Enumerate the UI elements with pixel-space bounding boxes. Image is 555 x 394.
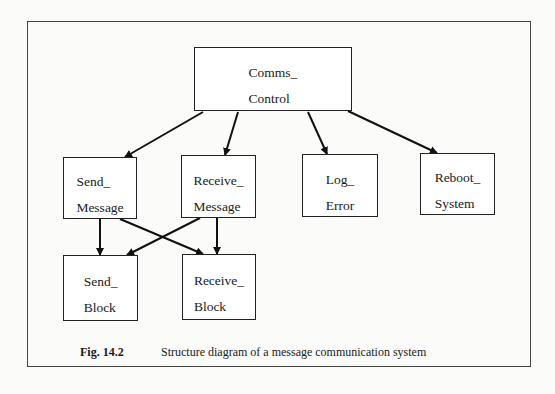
node-label: Send_ Message (76, 162, 123, 214)
node-label-line2: Control (249, 91, 290, 106)
node-log-error: Log_ Error (302, 154, 378, 217)
node-send-message: Send_ Message (63, 157, 137, 219)
figure-number: Fig. 14.2 (80, 345, 161, 360)
node-label: Reboot_ System (435, 158, 481, 210)
figure-caption: Fig. 14.2Structure diagram of a message … (80, 345, 426, 360)
node-label-line2: Block (84, 300, 116, 315)
node-label-line1: Send_ (76, 174, 110, 189)
node-label-line1: Send_ (84, 274, 118, 289)
figure-caption-text: Structure diagram of a message communica… (161, 345, 426, 359)
node-label: Receive_ Message (193, 161, 243, 213)
node-label-line1: Log_ (326, 172, 355, 187)
edge-comms-to-log-error (308, 112, 327, 154)
node-label: Receive_ Block (194, 261, 244, 313)
edge-receive-message-to-send-block (127, 218, 200, 255)
node-receive-block: Receive_ Block (182, 254, 256, 320)
edge-comms-to-receive-message (225, 112, 238, 155)
edge-comms-to-send-message (125, 112, 203, 157)
node-label-line2: System (435, 196, 475, 211)
node-comms-control: Comms_ Control (194, 47, 352, 111)
edge-comms-to-reboot-system (348, 111, 437, 153)
node-label-line2: Message (193, 199, 240, 214)
node-send-block: Send_ Block (63, 255, 138, 321)
node-label-line1: Comms_ (249, 65, 298, 80)
node-label-line1: Receive_ (193, 173, 243, 188)
node-label-line2: Block (194, 299, 226, 314)
node-reboot-system: Reboot_ System (420, 153, 495, 215)
node-receive-message: Receive_ Message (181, 155, 256, 218)
node-label-line1: Receive_ (194, 273, 244, 288)
node-label: Log_ Error (326, 160, 355, 212)
node-label: Send_ Block (84, 262, 118, 314)
node-label-line2: Error (326, 198, 354, 213)
node-label: Comms_ Control (249, 53, 298, 105)
node-label-line1: Reboot_ (435, 170, 481, 185)
node-label-line2: Message (76, 200, 123, 215)
